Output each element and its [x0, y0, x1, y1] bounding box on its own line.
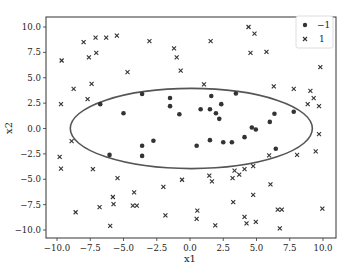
x-tick-label: −5.0	[113, 243, 134, 253]
data-point	[242, 135, 247, 140]
legend-label: −1	[317, 20, 330, 30]
data-point	[177, 112, 182, 117]
y-tick-label: 7.5	[27, 47, 41, 57]
x-tick-label: 7.5	[283, 243, 297, 253]
legend-label: 1	[319, 34, 325, 44]
legend: −1 1	[296, 16, 333, 48]
data-point	[107, 153, 112, 158]
y-axis-label: x2	[3, 122, 14, 134]
data-point	[140, 143, 145, 148]
data-point	[208, 107, 213, 112]
data-point	[168, 104, 173, 109]
x-tick-label: 2.5	[216, 243, 230, 253]
x-tick-label: 10.0	[313, 243, 332, 253]
data-point	[254, 127, 259, 132]
data-point	[140, 92, 145, 97]
data-point	[151, 138, 156, 143]
y-tick-label: −7.5	[20, 200, 41, 210]
circle-marker-icon	[303, 23, 307, 27]
y-tick-label: 5.0	[27, 73, 41, 83]
data-point	[168, 96, 173, 101]
data-point	[221, 140, 226, 145]
data-point	[214, 111, 219, 116]
x-tick-label: 5.0	[250, 243, 264, 253]
data-point	[234, 91, 239, 96]
data-point	[230, 140, 235, 145]
data-point	[208, 138, 213, 143]
data-point	[98, 102, 103, 107]
data-point	[194, 143, 199, 148]
data-point	[219, 102, 224, 107]
y-tick-label: 0.0	[27, 124, 41, 134]
x-tick-label: 0.0	[183, 243, 197, 253]
y-tick-label: −10.0	[15, 225, 41, 235]
x-tick-label: −7.5	[80, 243, 101, 253]
x-axis-label: x1	[184, 253, 196, 264]
scatter-chart: −10.0−7.5−5.0−2.50.02.55.07.510.010.07.5…	[0, 0, 348, 276]
data-point	[273, 147, 278, 152]
data-point	[291, 109, 296, 114]
data-point	[140, 154, 145, 159]
data-point	[250, 125, 255, 130]
data-point	[217, 117, 222, 122]
data-point	[198, 107, 203, 112]
x-tick-label: −10.0	[44, 243, 70, 253]
y-tick-label: −2.5	[20, 149, 41, 159]
y-tick-label: 10.0	[22, 22, 41, 32]
y-tick-label: 2.5	[27, 98, 41, 108]
data-point	[272, 111, 277, 116]
data-point	[268, 120, 273, 125]
plot-area	[46, 17, 336, 238]
data-point	[121, 111, 126, 116]
y-tick-label: −5.0	[20, 174, 41, 184]
data-point	[209, 94, 214, 99]
x-tick-label: −2.5	[146, 243, 167, 253]
